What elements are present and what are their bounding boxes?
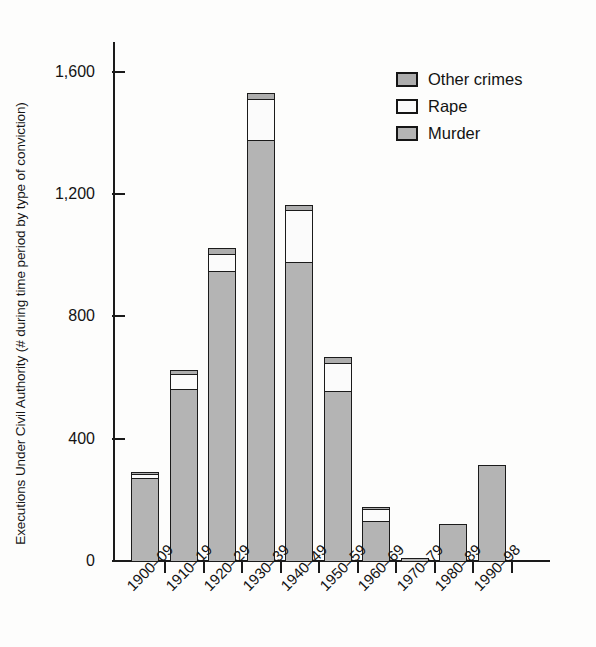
y-axis-tick-label: 1,600 [55,63,95,81]
y-axis-tick: 0 [112,560,125,562]
bar-1950-59[interactable] [324,357,352,560]
bar-segment-murder [208,271,236,562]
legend-swatch-icon [396,99,418,114]
bar-segment-murder [478,465,506,562]
bar-segment-murder [247,140,275,562]
legend-item-murder[interactable]: Murder [396,124,522,143]
bar-1940-49[interactable] [285,205,313,560]
chart-legend: Other crimesRapeMurder [396,70,522,143]
legend-item-label: Other crimes [428,70,522,89]
legend-swatch-icon [396,126,418,141]
legend-item-rape[interactable]: Rape [396,97,522,116]
bar-1920-29[interactable] [208,248,236,560]
bar-1910-19[interactable] [170,370,198,560]
y-axis-tick-label: 0 [86,552,95,570]
legend-swatch-icon [396,72,418,87]
legend-item-other-crimes[interactable]: Other crimes [396,70,522,89]
bar-1930-39[interactable] [247,93,275,560]
y-axis-tick-label: 400 [68,430,95,448]
bar-segment-rape [285,210,313,264]
bar-segment-murder [170,389,198,562]
y-axis-tick: 800 [112,315,125,317]
y-axis-tick-label: 800 [68,307,95,325]
bar-segment-murder [324,391,352,562]
y-axis-tick: 1,200 [112,193,125,195]
y-axis-tick-label: 1,200 [55,185,95,203]
y-axis-title: Executions Under Civil Authority (# duri… [0,0,40,647]
legend-item-label: Rape [428,97,467,116]
y-axis-tick: 400 [112,438,125,440]
bar-segment-murder [285,262,313,562]
legend-item-label: Murder [428,124,480,143]
bar-segment-rape [247,99,275,142]
bar-segment-rape [208,254,236,273]
bar-1900-09[interactable] [131,472,159,560]
bar-1990-98[interactable] [478,465,506,560]
y-axis-tick: 1,600 [112,71,125,73]
chart-container: Executions Under Civil Authority (# duri… [0,0,596,647]
bar-segment-rape [324,363,352,392]
y-axis-line [113,42,115,562]
